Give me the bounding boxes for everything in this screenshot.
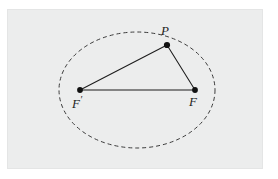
segment-p-to-focus-right (167, 45, 195, 90)
figure-root: P F′ F (0, 0, 278, 179)
point-marker-focus-right (192, 87, 198, 93)
label-focus-left-letter: F (72, 96, 80, 111)
label-focus-right: F (189, 95, 197, 108)
label-point-p: P (161, 24, 169, 37)
ellipse-figure-canvas (0, 0, 278, 179)
label-focus-left-prime-icon: ′ (80, 94, 82, 105)
label-focus-left: F′ (72, 95, 82, 110)
segment-focus-left-to-p (80, 45, 167, 90)
point-marker-p (164, 42, 170, 48)
point-marker-focus-left (77, 87, 83, 93)
